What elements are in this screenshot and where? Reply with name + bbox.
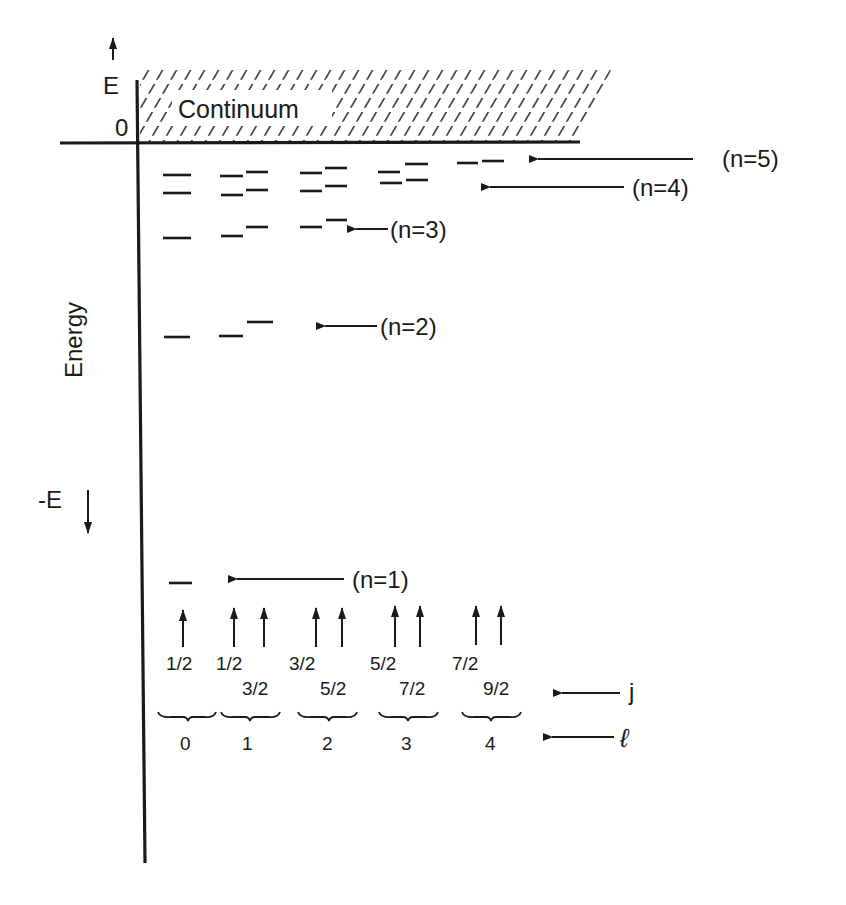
l-value: 0 (180, 733, 191, 754)
level-group-n2 (164, 322, 273, 337)
j-value: 1/2 (216, 653, 242, 674)
brace-l4 (462, 712, 521, 721)
j-value: 3/2 (289, 653, 315, 674)
l-row-label: ℓ (619, 723, 630, 753)
n1-label: (n=1) (352, 566, 409, 593)
zero-label: 0 (115, 114, 128, 141)
energy-axis-label: Energy (60, 302, 87, 378)
j-value: 3/2 (242, 678, 268, 699)
n5-label: (n=5) (722, 145, 779, 172)
n-labels: (n=5) (n=4) (n=3) (n=2) (n=1) (237, 145, 779, 593)
l-value: 4 (485, 733, 496, 754)
brace-l1 (221, 712, 280, 721)
n3-label: (n=3) (390, 216, 447, 243)
l-value: 2 (322, 733, 333, 754)
continuum-label: Continuum (178, 95, 299, 123)
level-group-n4 (163, 180, 428, 195)
level-group-n3 (163, 220, 347, 238)
j-arrows (183, 606, 501, 647)
l-value: 1 (242, 733, 253, 754)
j-value: 7/2 (399, 678, 425, 699)
j-row-label: j (628, 678, 634, 705)
j-value: 5/2 (320, 678, 346, 699)
energy-level-diagram: Continuum E 0 Energy -E (0, 0, 846, 905)
top-energy-label: E (103, 72, 119, 99)
brace-l3 (379, 712, 438, 721)
j-value-labels: 1/2 1/2 3/2 3/2 5/2 5/2 7/2 7/2 9/2 (166, 653, 509, 699)
level-group-n5 (163, 161, 504, 176)
energy-axis (137, 80, 145, 863)
j-value: 1/2 (166, 653, 192, 674)
zero-energy-line (60, 142, 580, 143)
j-value: 5/2 (370, 653, 396, 674)
j-value: 7/2 (452, 653, 478, 674)
l-value-labels: 0 1 2 3 4 (180, 733, 496, 754)
l-braces (158, 712, 521, 721)
brace-l0 (158, 712, 216, 721)
continuum-region: Continuum (138, 64, 618, 144)
negative-energy-label: -E (38, 486, 62, 513)
brace-l2 (298, 712, 357, 721)
n4-label: (n=4) (632, 174, 689, 201)
l-value: 3 (401, 733, 412, 754)
energy-levels (163, 161, 504, 583)
n2-label: (n=2) (380, 313, 437, 340)
j-value: 9/2 (483, 678, 509, 699)
